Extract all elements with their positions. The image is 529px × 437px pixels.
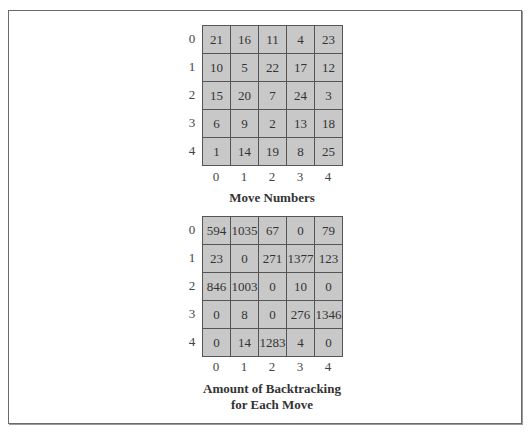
grid-cell: 12: [315, 54, 343, 82]
grid-cell: 8: [287, 138, 315, 166]
col-label: 0: [202, 168, 230, 186]
grid-cell: 14: [231, 138, 259, 166]
grid-cell: 15: [203, 82, 231, 110]
move-numbers-caption: Move Numbers: [150, 190, 394, 206]
move-numbers-row-labels: 0 1 2 3 4: [186, 25, 198, 165]
grid-cell: 6: [203, 110, 231, 138]
col-label: 3: [286, 168, 314, 186]
col-label: 1: [230, 358, 258, 376]
row-label: 2: [186, 272, 198, 300]
grid-cell: 16: [231, 26, 259, 54]
grid-cell: 0: [231, 245, 259, 273]
grid-cell: 21: [203, 26, 231, 54]
grid-cell: 0: [259, 273, 287, 301]
grid-cell: 4: [287, 26, 315, 54]
grid-cell: 10: [287, 273, 315, 301]
grid-cell: 67: [259, 217, 287, 245]
grid-cell: 0: [315, 273, 343, 301]
grid-cell: 25: [315, 138, 343, 166]
caption-line: Move Numbers: [150, 190, 394, 206]
backtracking-grid: 594 1035 67 0 79 23 0 271 1377 123 846 1…: [202, 216, 343, 357]
grid-cell: 123: [315, 245, 343, 273]
grid-cell: 276: [287, 301, 315, 329]
row-label: 4: [186, 328, 198, 356]
grid-cell: 20: [231, 82, 259, 110]
row-label: 1: [186, 53, 198, 81]
grid-cell: 79: [315, 217, 343, 245]
row-label: 1: [186, 244, 198, 272]
grid-cell: 594: [203, 217, 231, 245]
row-label: 0: [186, 216, 198, 244]
grid-cell: 846: [203, 273, 231, 301]
grid-cell: 13: [287, 110, 315, 138]
col-label: 4: [314, 168, 342, 186]
grid-cell: 0: [287, 217, 315, 245]
row-label: 2: [186, 81, 198, 109]
grid-cell: 17: [287, 54, 315, 82]
grid-cell: 1346: [315, 301, 343, 329]
col-label: 3: [286, 358, 314, 376]
caption-line: Amount of Backtracking: [150, 381, 394, 397]
grid-cell: 23: [315, 26, 343, 54]
grid-cell: 1: [203, 138, 231, 166]
grid-cell: 1377: [287, 245, 315, 273]
grid-cell: 0: [203, 329, 231, 357]
grid-cell: 1003: [231, 273, 259, 301]
grid-cell: 10: [203, 54, 231, 82]
grid-cell: 2: [259, 110, 287, 138]
grid-cell: 24: [287, 82, 315, 110]
grid-cell: 4: [287, 329, 315, 357]
move-numbers-grid: 21 16 11 4 23 10 5 22 17 12 15 20 7 24 3…: [202, 25, 343, 166]
col-label: 0: [202, 358, 230, 376]
col-label: 1: [230, 168, 258, 186]
backtracking-col-labels: 0 1 2 3 4: [202, 358, 342, 376]
grid-cell: 271: [259, 245, 287, 273]
grid-cell: 1283: [259, 329, 287, 357]
row-label: 3: [186, 300, 198, 328]
backtracking-caption: Amount of Backtracking for Each Move: [150, 381, 394, 413]
grid-cell: 5: [231, 54, 259, 82]
grid-cell: 7: [259, 82, 287, 110]
backtracking-row-labels: 0 1 2 3 4: [186, 216, 198, 356]
grid-cell: 19: [259, 138, 287, 166]
grid-cell: 3: [315, 82, 343, 110]
grid-cell: 23: [203, 245, 231, 273]
col-label: 4: [314, 358, 342, 376]
move-numbers-col-labels: 0 1 2 3 4: [202, 168, 342, 186]
row-label: 4: [186, 137, 198, 165]
grid-cell: 1035: [231, 217, 259, 245]
grid-cell: 22: [259, 54, 287, 82]
grid-cell: 0: [315, 329, 343, 357]
grid-cell: 14: [231, 329, 259, 357]
grid-cell: 8: [231, 301, 259, 329]
grid-cell: 18: [315, 110, 343, 138]
col-label: 2: [258, 168, 286, 186]
row-label: 3: [186, 109, 198, 137]
row-label: 0: [186, 25, 198, 53]
grid-cell: 9: [231, 110, 259, 138]
col-label: 2: [258, 358, 286, 376]
grid-cell: 0: [203, 301, 231, 329]
grid-cell: 0: [259, 301, 287, 329]
caption-line: for Each Move: [150, 397, 394, 413]
grid-cell: 11: [259, 26, 287, 54]
